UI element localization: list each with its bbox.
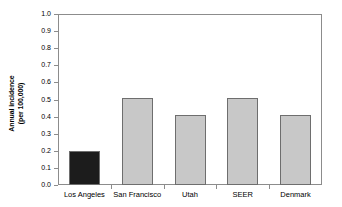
y-axis-ticks: 0.00.10.20.30.40.50.60.70.80.91.0 xyxy=(0,0,58,207)
y-tick-label: 1.0 xyxy=(41,9,51,18)
x-axis-category-label: Utah xyxy=(164,189,217,200)
y-tick-label: 0.2 xyxy=(41,146,51,155)
x-axis-labels: Los AngelesSan FranciscoUtahSEERDenmark xyxy=(58,189,322,203)
y-tick-label: 0.3 xyxy=(41,129,51,138)
bar xyxy=(69,151,100,185)
y-tick-label: 0.9 xyxy=(41,26,51,35)
y-tick-label: 0.1 xyxy=(41,163,51,172)
bar-series xyxy=(58,14,322,185)
bar-chart-figure: Annual incidence (per 100,000) 0.00.10.2… xyxy=(0,0,342,207)
x-axis-category-label: Denmark xyxy=(269,189,322,200)
y-tick-label: 0.5 xyxy=(41,95,51,104)
y-tick-label: 0.7 xyxy=(41,60,51,69)
y-tick-label: 0.0 xyxy=(41,180,51,189)
bar xyxy=(280,115,311,185)
bar xyxy=(175,115,206,185)
y-tick-label: 0.8 xyxy=(41,43,51,52)
x-axis-category-label: Los Angeles xyxy=(58,189,111,200)
x-axis-category-label: San Francisco xyxy=(111,189,164,200)
x-axis-category-label: SEER xyxy=(216,189,269,200)
bar xyxy=(227,98,258,185)
y-tick-label: 0.4 xyxy=(41,112,51,121)
y-tick-label: 0.6 xyxy=(41,77,51,86)
bar xyxy=(122,98,153,185)
